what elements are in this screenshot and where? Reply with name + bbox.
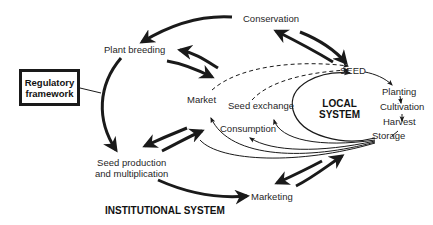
node-cultivation: Cultivation — [380, 101, 424, 112]
local-system-line2: SYSTEM — [319, 109, 360, 120]
seed-production-line1: Seed production — [95, 157, 168, 168]
arrow-storage-to-seed-exchange — [274, 120, 375, 143]
regulatory-label-line1: Regulatory — [25, 77, 75, 88]
arrow-seed-production-to-marketing — [158, 180, 247, 197]
seed-production-line2: and multiplication — [95, 168, 168, 179]
arrow-local-to-seed-production — [145, 128, 187, 146]
arrow-seed-production-to-local — [162, 131, 202, 151]
arrow-storage-to-marketing — [277, 161, 322, 183]
regulatory-connector — [80, 88, 101, 93]
local-system-label: LOCAL SYSTEM — [319, 98, 360, 120]
regulatory-framework-box: Regulatory framework — [19, 69, 80, 106]
node-conservation: Conservation — [243, 13, 299, 24]
node-marketing: Marketing — [251, 191, 293, 202]
arrow-plant-breeding-to-seed-production — [102, 58, 121, 150]
node-consumption: Consumption — [220, 123, 276, 134]
dashed-market-to-seed — [212, 64, 348, 90]
arrow-seed-to-planting — [365, 72, 392, 85]
institutional-system-label: INSTITUTIONAL SYSTEM — [105, 205, 225, 216]
node-storage: Storage — [372, 130, 405, 141]
node-market: Market — [187, 94, 216, 105]
dashed-seed-exchange-to-seed — [252, 70, 348, 100]
node-plant-breeding: Plant breeding — [104, 44, 165, 55]
arrow-plant-breeding-to-local — [167, 61, 212, 77]
arrow-seed-to-conservation — [276, 31, 333, 62]
seed-system-diagram: Regulatory framework Conservation Plant … — [0, 0, 433, 225]
node-seed-exchange: Seed exchange — [228, 100, 294, 111]
arrow-conservation-to-plant-breeding — [142, 17, 232, 42]
node-seed-production: Seed production and multiplication — [95, 157, 168, 179]
diagram-connectors — [0, 0, 433, 225]
node-planting: Planting — [382, 86, 416, 97]
local-system-line1: LOCAL — [319, 98, 360, 109]
regulatory-label-line2: framework — [25, 88, 75, 99]
node-harvest: Harvest — [383, 116, 416, 127]
node-seed: SEED — [340, 65, 366, 76]
